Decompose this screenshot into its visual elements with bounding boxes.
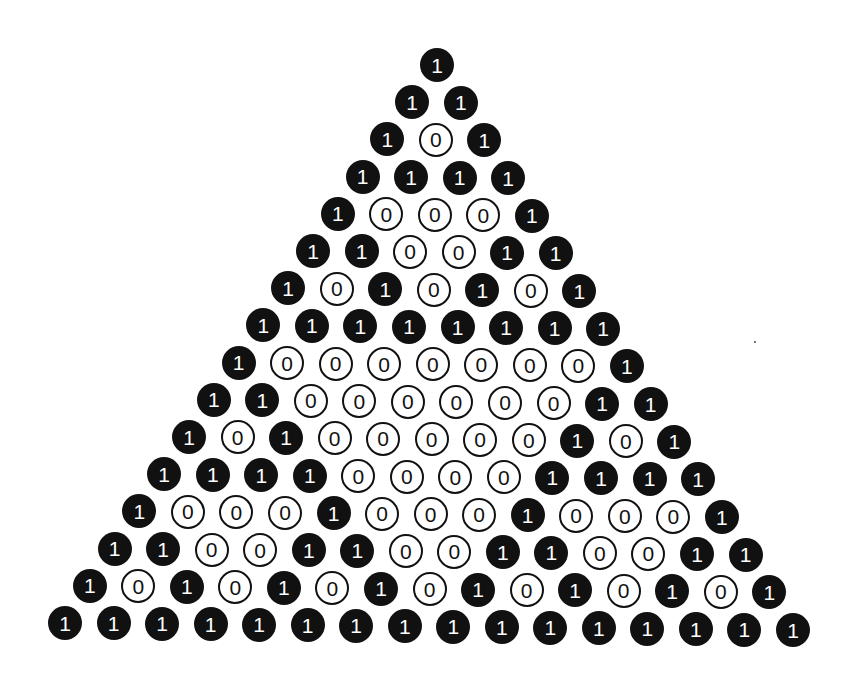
cell-one: 1 bbox=[196, 458, 230, 492]
cell-one: 1 bbox=[680, 537, 714, 571]
cell-one: 1 bbox=[533, 611, 567, 645]
cell-zero: 0 bbox=[221, 420, 255, 454]
cell-one: 1 bbox=[343, 309, 377, 343]
cell-zero: 0 bbox=[419, 123, 453, 157]
cell-zero: 0 bbox=[416, 347, 450, 381]
cell-zero: 0 bbox=[631, 537, 665, 571]
cell-zero: 0 bbox=[369, 197, 403, 231]
cell-one: 1 bbox=[97, 606, 131, 640]
cell-zero: 0 bbox=[219, 495, 253, 529]
cell-one: 1 bbox=[392, 310, 426, 344]
cell-zero: 0 bbox=[367, 347, 401, 381]
cell-zero: 0 bbox=[512, 423, 546, 457]
pascal-triangle-diagram: 1111011111100011100111010101111111111000… bbox=[0, 0, 859, 680]
cell-one: 1 bbox=[170, 570, 204, 604]
cell-one: 1 bbox=[147, 457, 181, 491]
cell-one: 1 bbox=[242, 608, 276, 642]
cell-one: 1 bbox=[197, 383, 231, 417]
cell-zero: 0 bbox=[320, 272, 354, 306]
cell-one: 1 bbox=[584, 461, 618, 495]
cell-one: 1 bbox=[485, 610, 519, 644]
cell-one: 1 bbox=[364, 572, 398, 606]
cell-one: 1 bbox=[420, 48, 454, 82]
cell-one: 1 bbox=[467, 123, 501, 157]
cell-zero: 0 bbox=[559, 499, 593, 533]
cell-one: 1 bbox=[489, 311, 523, 345]
cell-zero: 0 bbox=[438, 460, 472, 494]
cell-zero: 0 bbox=[442, 235, 476, 269]
cell-zero: 0 bbox=[195, 533, 229, 567]
cell-zero: 0 bbox=[243, 533, 277, 567]
cell-one: 1 bbox=[558, 573, 592, 607]
cell-zero: 0 bbox=[463, 423, 497, 457]
cell-one: 1 bbox=[586, 312, 620, 346]
cell-zero: 0 bbox=[462, 498, 496, 532]
cell-one: 1 bbox=[292, 533, 326, 567]
cell-one: 1 bbox=[585, 387, 619, 421]
cell-one: 1 bbox=[271, 271, 305, 305]
cell-zero: 0 bbox=[319, 347, 353, 381]
cell-one: 1 bbox=[681, 462, 715, 496]
cell-one: 1 bbox=[267, 571, 301, 605]
cell-one: 1 bbox=[515, 199, 549, 233]
cell-zero: 0 bbox=[437, 535, 471, 569]
cell-zero: 0 bbox=[414, 497, 448, 531]
cell-one: 1 bbox=[222, 346, 256, 380]
cell-one: 1 bbox=[776, 613, 810, 647]
cell-one: 1 bbox=[465, 273, 499, 307]
cell-one: 1 bbox=[172, 420, 206, 454]
cell-zero: 0 bbox=[464, 348, 498, 382]
cell-zero: 0 bbox=[390, 460, 424, 494]
cell-one: 1 bbox=[634, 387, 668, 421]
cell-one: 1 bbox=[490, 236, 524, 270]
cell-zero: 0 bbox=[366, 422, 400, 456]
cell-one: 1 bbox=[630, 612, 664, 646]
cell-zero: 0 bbox=[218, 570, 252, 604]
cell-zero: 0 bbox=[417, 273, 451, 307]
cell-one: 1 bbox=[98, 532, 132, 566]
cell-one: 1 bbox=[145, 607, 179, 641]
cell-zero: 0 bbox=[561, 349, 595, 383]
cell-zero: 0 bbox=[609, 424, 643, 458]
cell-one: 1 bbox=[368, 272, 402, 306]
cell-zero: 0 bbox=[391, 385, 425, 419]
cell-zero: 0 bbox=[268, 496, 302, 530]
cell-one: 1 bbox=[486, 535, 520, 569]
cell-one: 1 bbox=[122, 494, 156, 528]
cell-zero: 0 bbox=[270, 346, 304, 380]
cell-zero: 0 bbox=[315, 571, 349, 605]
cell-zero: 0 bbox=[583, 536, 617, 570]
stray-speck bbox=[754, 341, 756, 343]
cell-one: 1 bbox=[441, 310, 475, 344]
cell-one: 1 bbox=[73, 569, 107, 603]
cell-zero: 0 bbox=[342, 384, 376, 418]
cell-zero: 0 bbox=[487, 460, 521, 494]
cell-one: 1 bbox=[705, 500, 739, 534]
cell-one: 1 bbox=[444, 86, 478, 120]
cell-zero: 0 bbox=[415, 422, 449, 456]
cell-one: 1 bbox=[340, 534, 374, 568]
cell-one: 1 bbox=[339, 609, 373, 643]
cell-zero: 0 bbox=[608, 499, 642, 533]
cell-one: 1 bbox=[370, 122, 404, 156]
cell-zero: 0 bbox=[704, 575, 738, 609]
cell-zero: 0 bbox=[341, 459, 375, 493]
cell-one: 1 bbox=[535, 461, 569, 495]
cell-one: 1 bbox=[560, 424, 594, 458]
cell-zero: 0 bbox=[466, 198, 500, 232]
cell-zero: 0 bbox=[318, 421, 352, 455]
cell-zero: 0 bbox=[294, 384, 328, 418]
cell-one: 1 bbox=[394, 160, 428, 194]
cell-zero: 0 bbox=[418, 198, 452, 232]
cell-zero: 0 bbox=[171, 495, 205, 529]
cell-one: 1 bbox=[538, 311, 572, 345]
cell-one: 1 bbox=[752, 575, 786, 609]
cell-one: 1 bbox=[562, 274, 596, 308]
cell-one: 1 bbox=[293, 459, 327, 493]
cell-one: 1 bbox=[395, 85, 429, 119]
cell-one: 1 bbox=[296, 234, 330, 268]
cell-zero: 0 bbox=[439, 385, 473, 419]
cell-one: 1 bbox=[48, 606, 82, 640]
cell-zero: 0 bbox=[513, 348, 547, 382]
cell-one: 1 bbox=[388, 609, 422, 643]
